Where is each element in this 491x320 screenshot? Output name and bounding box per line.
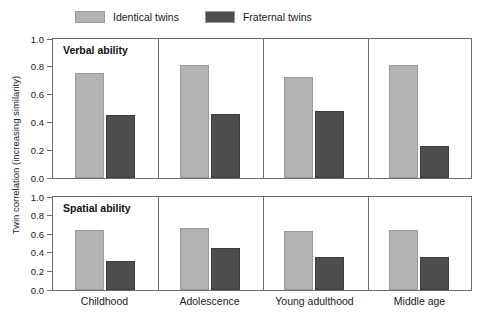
bar-verbal-childhood-identical: [75, 73, 104, 178]
panel-title-spatial: Spatial ability: [63, 202, 131, 214]
legend-label-fraternal-twins: Fraternal twins: [243, 11, 312, 23]
bar-group-verbal-3: [367, 39, 472, 178]
bar-spatial-young-adulthood-fraternal: [315, 257, 344, 290]
bars: [367, 197, 472, 290]
y-axis-spatial: 0.00.20.40.60.81.0: [0, 196, 52, 291]
bar-groups-verbal: [53, 39, 471, 178]
chart-legend: Identical twins Fraternal twins: [75, 9, 312, 25]
bars: [53, 39, 158, 178]
y-tick-label: 0.0: [31, 172, 47, 183]
bar-group-verbal-0: [53, 39, 158, 178]
bar-verbal-young-adulthood-fraternal: [315, 111, 344, 178]
y-tick-label: 0.8: [31, 210, 47, 221]
x-axis-label-young-adulthood: Young adulthood: [262, 295, 367, 307]
bar-group-spatial-2: [262, 197, 367, 290]
panel-spatial-ability: Spatial ability: [52, 196, 472, 291]
y-tick-label: 0.0: [31, 284, 47, 295]
bars: [262, 39, 367, 178]
bar-verbal-middle-age-identical: [389, 65, 418, 178]
bar-spatial-middle-age-identical: [389, 230, 418, 290]
y-tick-label: 0.6: [31, 228, 47, 239]
bar-spatial-middle-age-fraternal: [420, 257, 449, 290]
bar-spatial-childhood-fraternal: [106, 261, 135, 290]
bars: [158, 39, 263, 178]
bar-verbal-middle-age-fraternal: [420, 146, 449, 178]
y-tick-label: 0.4: [31, 116, 47, 127]
legend-swatch-identical-twins: [75, 11, 105, 23]
bar-group-verbal-2: [262, 39, 367, 178]
x-axis-label-adolescence: Adolescence: [157, 295, 262, 307]
x-axis-labels: ChildhoodAdolescenceYoung adulthoodMiddl…: [52, 295, 472, 307]
bar-group-spatial-1: [158, 197, 263, 290]
legend-swatch-fraternal-twins: [205, 11, 235, 23]
bar-verbal-adolescence-identical: [180, 65, 209, 178]
twin-correlation-chart: Identical twins Fraternal twins Twin cor…: [0, 0, 491, 320]
bar-verbal-adolescence-fraternal: [211, 114, 240, 178]
legend-entry-identical-twins: Identical twins: [75, 11, 179, 23]
bars: [158, 197, 263, 290]
x-axis-label-childhood: Childhood: [52, 295, 157, 307]
x-axis-label-middle-age: Middle age: [367, 295, 472, 307]
bar-group-verbal-1: [158, 39, 263, 178]
y-tick-label: 1.0: [31, 191, 47, 202]
y-tick-label: 0.4: [31, 247, 47, 258]
y-tick-label: 0.6: [31, 89, 47, 100]
panel-title-verbal: Verbal ability: [63, 44, 128, 56]
bar-verbal-childhood-fraternal: [106, 115, 135, 178]
y-axis-verbal: 0.00.20.40.60.81.0: [0, 38, 52, 179]
y-tick-label: 0.2: [31, 265, 47, 276]
bar-spatial-adolescence-fraternal: [211, 248, 240, 290]
bars: [262, 197, 367, 290]
legend-label-identical-twins: Identical twins: [113, 11, 179, 23]
y-tick-label: 1.0: [31, 33, 47, 44]
bar-group-spatial-3: [367, 197, 472, 290]
y-tick-label: 0.2: [31, 144, 47, 155]
y-tick-label: 0.8: [31, 61, 47, 72]
panel-verbal-ability: Verbal ability: [52, 38, 472, 179]
bar-spatial-childhood-identical: [75, 230, 104, 290]
bar-spatial-young-adulthood-identical: [284, 231, 313, 290]
legend-entry-fraternal-twins: Fraternal twins: [205, 11, 312, 23]
bar-verbal-young-adulthood-identical: [284, 77, 313, 178]
bar-spatial-adolescence-identical: [180, 228, 209, 290]
bars: [367, 39, 472, 178]
